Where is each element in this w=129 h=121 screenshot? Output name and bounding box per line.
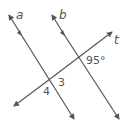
line-t-label: t — [114, 34, 119, 46]
line-a-lower — [22, 36, 74, 119]
line-a-label: a — [16, 9, 23, 21]
parallel-marker-a-icon — [17, 30, 22, 36]
geometry-diagram: a b t 95° 3 4 — [0, 0, 129, 121]
angle-95-label: 95° — [86, 55, 106, 66]
line-b-lower — [65, 36, 119, 119]
parallel-marker-b-icon — [60, 30, 65, 36]
angle-3-label: 3 — [58, 77, 65, 88]
line-b-label: b — [59, 9, 67, 21]
angle-4-label: 4 — [43, 86, 50, 97]
